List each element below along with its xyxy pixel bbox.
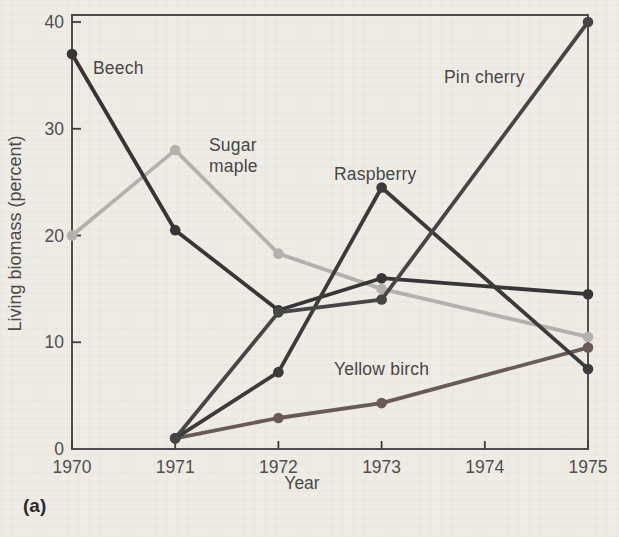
data-point-yellow-birch (583, 342, 594, 353)
data-point-raspberry (583, 364, 594, 375)
series-label-pin-cherry: Pin cherry (444, 67, 525, 88)
series-line-sugar-maple (72, 150, 588, 337)
data-point-beech (67, 49, 78, 60)
data-point-beech (170, 225, 181, 236)
data-point-sugar-maple (583, 332, 594, 343)
data-point-pin-cherry (583, 17, 594, 28)
data-point-sugar-maple (170, 145, 181, 156)
data-point-yellow-birch (273, 413, 284, 424)
x-tick-label: 1971 (156, 457, 195, 477)
data-point-pin-cherry (273, 307, 284, 318)
data-point-sugar-maple (273, 248, 284, 259)
data-point-sugar-maple (67, 230, 78, 241)
y-tick-label: 20 (45, 226, 65, 246)
y-tick-label: 40 (45, 12, 65, 32)
data-point-pin-cherry (170, 433, 181, 444)
y-axis-label: Living biomass (percent) (5, 119, 26, 349)
x-tick-label: 1974 (465, 457, 504, 477)
series-label-raspberry: Raspberry (334, 164, 417, 185)
data-point-beech (376, 273, 387, 284)
series-label-beech: Beech (93, 58, 144, 79)
panel-label: (a) (23, 495, 46, 517)
x-axis-label: Year (270, 473, 334, 494)
data-point-yellow-birch (376, 398, 387, 409)
data-point-raspberry (273, 367, 284, 378)
figure-panel-a: 010203040197019711972197319741975 Sugar … (0, 0, 619, 537)
series-label-yellow-birch: Yellow birch (334, 359, 429, 380)
x-tick-label: 1970 (53, 457, 92, 477)
series-label-sugar-maple: Sugar maple (209, 135, 279, 177)
data-point-beech (583, 289, 594, 300)
y-tick-label: 10 (45, 332, 65, 352)
x-tick-label: 1973 (362, 457, 401, 477)
y-tick-label: 0 (54, 439, 64, 459)
y-tick-label: 30 (45, 119, 65, 139)
data-point-pin-cherry (376, 294, 387, 305)
chart-canvas: 010203040197019711972197319741975 (0, 0, 619, 537)
x-tick-label: 1975 (569, 457, 608, 477)
